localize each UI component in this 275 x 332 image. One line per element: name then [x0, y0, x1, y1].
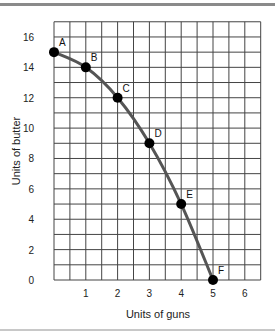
x-axis-title: Units of guns [126, 308, 191, 320]
ppf-chart: 0246810121416 123456 Units of guns Units… [0, 0, 275, 332]
point-e-marker [176, 199, 186, 209]
x-tick-label: 5 [210, 288, 216, 299]
y-tick-label: 10 [23, 123, 35, 134]
point-e-label: E [186, 189, 193, 200]
y-tick-label: 4 [28, 214, 34, 225]
point-d-marker [144, 138, 154, 148]
y-axis-ticks: 0246810121416 [23, 32, 35, 286]
grid [54, 22, 261, 280]
y-tick-label: 12 [23, 93, 35, 104]
y-tick-label: 14 [23, 62, 35, 73]
x-tick-label: 6 [242, 288, 248, 299]
y-axis-title: Units of butter [10, 116, 22, 185]
y-tick-label: 16 [23, 32, 35, 43]
y-tick-label: 2 [28, 245, 34, 256]
point-b-label: B [91, 52, 98, 63]
point-a-label: A [59, 37, 66, 48]
y-tick-label: 0 [28, 275, 34, 286]
x-tick-label: 2 [115, 288, 121, 299]
point-c-marker [113, 93, 123, 103]
point-b-marker [81, 62, 91, 72]
point-f-marker [208, 275, 218, 285]
y-tick-label: 8 [28, 153, 34, 164]
x-tick-label: 1 [83, 288, 89, 299]
point-d-label: D [154, 128, 161, 139]
point-f-label: F [218, 265, 224, 276]
x-axis-ticks: 123456 [83, 288, 248, 299]
point-a-marker [49, 47, 59, 57]
y-tick-label: 6 [28, 184, 34, 195]
point-c-label: C [123, 83, 130, 94]
x-tick-label: 3 [147, 288, 153, 299]
x-tick-label: 4 [178, 288, 184, 299]
data-points: ABCDEF [49, 37, 224, 285]
